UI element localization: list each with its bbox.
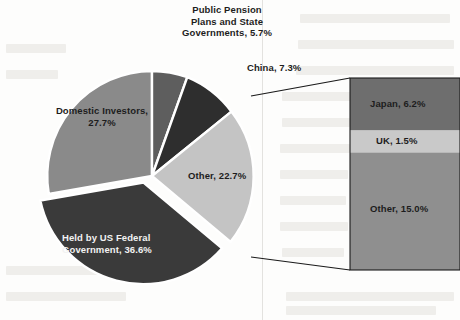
pie-label-china: China, 7.3% (247, 62, 333, 74)
pie-and-breakout-figure (0, 0, 460, 320)
connector-line-top (251, 78, 350, 96)
bar-label-uk: UK, 1.5% (376, 135, 460, 147)
pie-slice-domestic-investors[interactable] (47, 71, 152, 194)
connector-line-bottom (251, 257, 350, 270)
pie-label-public-pension-plans: Public Pension Plans and State Governmen… (168, 4, 286, 39)
bar-label-japan: Japan, 6.2% (370, 98, 460, 110)
bar-label-other: Other, 15.0% (370, 203, 460, 215)
pie-label-held-by-us-federal-government: Held by US Federal Government, 36.6% (62, 232, 186, 255)
pie-label-domestic-investors: Domestic Investors, 27.7% (44, 105, 160, 128)
pie-label-other: Other, 22.7% (188, 170, 278, 182)
chart-canvas: Public Pension Plans and State Governmen… (0, 0, 460, 320)
